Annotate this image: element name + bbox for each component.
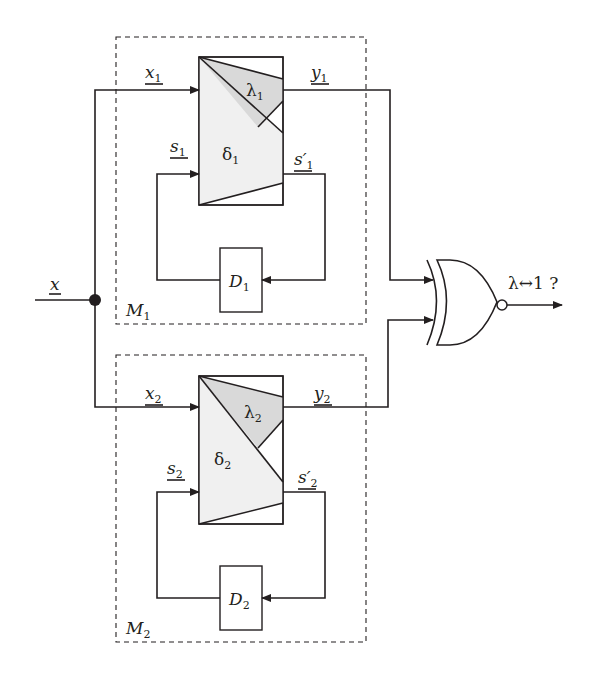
combinational-block-m1: λ1 δ1 — [199, 57, 283, 205]
s1-label: s1 — [170, 136, 186, 159]
y2-wire — [283, 320, 433, 407]
combinational-block-m2: λ2 δ2 — [199, 376, 283, 524]
x1-label: x1 — [145, 62, 162, 85]
y1-label: y1 — [310, 62, 328, 85]
machine-comparison-diagram: λ1 δ1 D1 x1 y1 s1 s′1 M1 λ2 — [0, 0, 593, 680]
m1-label: M1 — [125, 300, 150, 323]
machine-m2: λ2 δ2 D2 x2 y2 s2 s′2 M2 — [116, 355, 366, 642]
x-label: x — [50, 274, 60, 294]
s2-prime-label: s′2 — [298, 467, 318, 490]
y2-label: y2 — [313, 383, 331, 406]
inversion-bubble — [497, 300, 507, 310]
output-label: λ↔1 ? — [508, 273, 558, 293]
s2-label: s2 — [167, 458, 183, 481]
m2-label: M2 — [125, 618, 150, 641]
s1-prime-label: s′1 — [294, 149, 314, 172]
y1-wire — [283, 90, 433, 280]
machine-m1: λ1 δ1 D1 x1 y1 s1 s′1 M1 — [116, 37, 366, 324]
x1-wire — [95, 90, 199, 300]
x2-label: x2 — [145, 383, 162, 406]
xnor-gate — [427, 260, 507, 345]
